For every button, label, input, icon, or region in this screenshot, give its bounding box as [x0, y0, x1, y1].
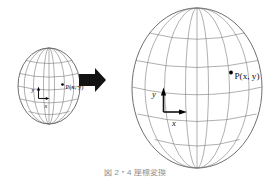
large-sphere-y-axis-arrowhead	[161, 88, 166, 96]
figure-container: P(x, y) y x	[0, 0, 270, 177]
small-sphere-y-axis-label: y	[31, 86, 35, 93]
small-sphere-x-axis-label: x	[44, 102, 48, 109]
figure-caption: 図 2・4 座標変換	[0, 169, 270, 177]
figure-drawing: P(x, y) y x	[0, 0, 270, 177]
small-sphere-y-axis-arrowhead	[37, 87, 40, 91]
small-sphere-group: P(x, y) y x	[18, 48, 83, 124]
large-sphere-point-marker	[229, 71, 233, 75]
large-sphere-group: P(x, y) y x	[132, 8, 262, 168]
large-sphere-x-axis-label: x	[171, 118, 176, 128]
small-sphere-point-marker	[61, 83, 64, 86]
large-sphere-point-label: P(x, y)	[235, 71, 260, 81]
large-sphere-y-axis-label: y	[151, 89, 156, 99]
